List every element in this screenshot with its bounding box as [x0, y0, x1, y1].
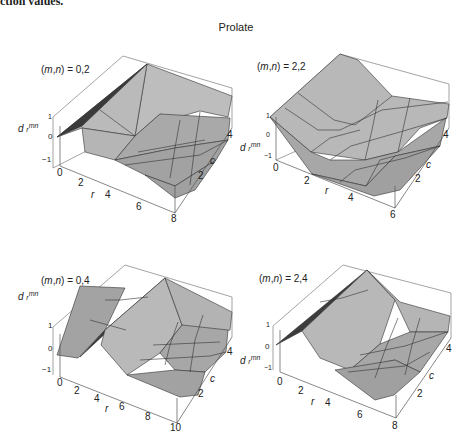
panel-4-mn-label: (m,n) = 2,4	[259, 274, 308, 284]
x-tick: 0	[57, 378, 63, 388]
panel-4-z-axis-label: d rmn	[240, 356, 260, 366]
mn-superscript: mn	[29, 290, 39, 297]
panel-0-4	[53, 265, 232, 423]
x-tick: 4	[94, 394, 100, 404]
z-tick: 1	[266, 321, 270, 328]
panel-2-mn-label: (m,n) = 2,2	[257, 62, 306, 72]
z-tick: −1	[264, 364, 272, 371]
z-tick: 1	[48, 113, 52, 120]
m-symbol: m	[44, 275, 52, 286]
m-symbol: m	[260, 61, 268, 72]
d-symbol: d	[18, 123, 24, 134]
mn-value: ) = 2,2	[277, 61, 306, 72]
x-tick: 8	[145, 412, 151, 422]
y-tick: 2	[417, 389, 423, 399]
y-tick: 2	[198, 389, 204, 399]
x-axis-label: r	[311, 397, 314, 407]
z-tick: 0	[266, 131, 270, 138]
surface	[270, 54, 449, 196]
x-tick: 0	[57, 168, 63, 178]
y-tick: 4	[446, 344, 452, 354]
z-tick: 0	[48, 133, 52, 141]
x-tick: 6	[390, 210, 396, 220]
y-axis-label: c	[210, 156, 215, 166]
y-axis-label: c	[426, 160, 431, 170]
x-axis-label: r	[105, 404, 108, 414]
d-symbol: d	[18, 291, 24, 302]
x-tick: 2	[74, 386, 80, 396]
mn-value: ) = 0,2	[61, 64, 90, 75]
panel-3-z-axis-label: d rmn	[18, 292, 38, 302]
x-axis-label: r	[325, 186, 328, 196]
x-tick: 8	[392, 421, 398, 431]
x-tick: 8	[171, 214, 177, 224]
x-tick: 2	[78, 178, 84, 188]
surface	[57, 278, 232, 397]
z-tick: 0	[265, 343, 269, 351]
z-tick: 0	[48, 345, 52, 353]
y-axis-label: c	[210, 374, 215, 384]
d-symbol: d	[240, 355, 246, 366]
panel-2-2	[270, 54, 449, 208]
x-tick: 4	[105, 190, 111, 200]
z-tick: −1	[42, 156, 51, 164]
z-tick: 1	[48, 322, 52, 330]
x-tick: 0	[273, 163, 279, 173]
panel-0-2	[53, 56, 232, 213]
x-tick: 4	[348, 193, 354, 203]
mn-value: ) = 0,4	[61, 275, 90, 286]
d-symbol: d	[240, 142, 246, 153]
mn-superscript: mn	[29, 122, 39, 129]
y-tick: 4	[227, 130, 233, 140]
y-tick: 2	[415, 174, 421, 184]
y-tick: 4	[443, 130, 449, 140]
mn-superscript: mn	[251, 354, 261, 361]
y-tick: 2	[198, 171, 204, 181]
panel-1-z-axis-label: d rmn	[18, 124, 38, 134]
x-tick: 10	[170, 423, 181, 433]
x-tick: 6	[136, 202, 142, 212]
panel-2-z-axis-label: d rmn	[240, 143, 260, 153]
x-tick: 2	[304, 176, 310, 186]
panel-1-mn-label: (m,n) = 0,2	[41, 65, 90, 75]
m-symbol: m	[44, 64, 52, 75]
x-tick: 0	[277, 377, 283, 387]
z-tick: −1	[264, 152, 272, 159]
z-tick: 1	[266, 112, 270, 119]
x-axis-label: r	[91, 190, 94, 200]
x-tick: 4	[325, 398, 331, 408]
x-tick: 6	[357, 410, 363, 420]
x-tick: 6	[119, 402, 125, 412]
mn-superscript: mn	[251, 141, 261, 148]
y-tick: 4	[227, 347, 233, 357]
x-tick: 2	[298, 386, 304, 396]
m-symbol: m	[262, 273, 270, 284]
z-tick: −1	[42, 366, 51, 374]
panel-3-mn-label: (m,n) = 0,4	[41, 276, 90, 286]
mn-value: ) = 2,4	[279, 273, 308, 284]
y-axis-label: c	[429, 371, 434, 381]
